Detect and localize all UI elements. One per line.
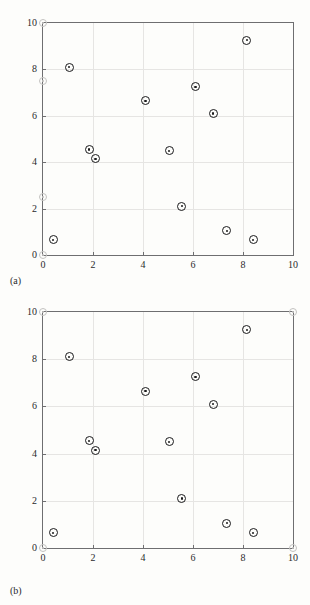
gridline-vertical bbox=[93, 312, 94, 548]
gridline-horizontal bbox=[43, 162, 293, 163]
data-point-marker bbox=[49, 235, 58, 244]
gridline-vertical bbox=[243, 312, 244, 548]
y-tick-label: 4 bbox=[32, 449, 37, 459]
data-point-marker bbox=[165, 437, 174, 446]
gridline-horizontal bbox=[43, 501, 293, 502]
data-point-marker bbox=[85, 145, 94, 154]
data-point-marker bbox=[242, 325, 251, 334]
x-tick-label: 10 bbox=[288, 260, 298, 270]
gridline-horizontal bbox=[43, 69, 293, 70]
data-point-marker bbox=[141, 96, 150, 105]
x-tick-label: 8 bbox=[241, 260, 246, 270]
x-tick-mark bbox=[93, 545, 94, 549]
boundary-marker bbox=[39, 544, 47, 552]
y-tick-label: 0 bbox=[32, 543, 37, 553]
y-tick-mark bbox=[42, 454, 46, 455]
data-point-marker bbox=[177, 202, 186, 211]
data-point-marker bbox=[242, 36, 251, 45]
x-tick-label: 10 bbox=[288, 553, 298, 563]
y-tick-mark bbox=[42, 69, 46, 70]
y-tick-label: 4 bbox=[32, 157, 37, 167]
y-tick-mark bbox=[42, 406, 46, 407]
data-point-marker bbox=[91, 446, 100, 455]
x-tick-label: 8 bbox=[241, 553, 246, 563]
data-point-marker bbox=[249, 235, 258, 244]
y-tick-label: 8 bbox=[32, 64, 37, 74]
y-tick-mark bbox=[42, 162, 46, 163]
gridline-vertical bbox=[93, 23, 94, 255]
x-tick-mark bbox=[193, 545, 194, 549]
y-tick-label: 10 bbox=[27, 18, 37, 28]
boundary-marker bbox=[39, 19, 47, 27]
y-tick-mark bbox=[42, 116, 46, 117]
x-tick-label: 4 bbox=[141, 553, 146, 563]
panel-b: 02468100246810 (b) bbox=[0, 296, 310, 605]
x-tick-label: 0 bbox=[41, 260, 46, 270]
gridline-vertical bbox=[243, 23, 244, 255]
x-tick-label: 6 bbox=[191, 260, 196, 270]
gridline-vertical bbox=[143, 312, 144, 548]
y-tick-label: 6 bbox=[32, 111, 37, 121]
x-tick-mark bbox=[243, 252, 244, 256]
plot-area-b: 02468100246810 bbox=[42, 311, 294, 549]
x-tick-mark bbox=[93, 252, 94, 256]
panel-label-a: (a) bbox=[10, 276, 21, 286]
data-point-marker bbox=[222, 519, 231, 528]
y-tick-label: 10 bbox=[27, 307, 37, 317]
y-tick-mark bbox=[42, 501, 46, 502]
x-tick-mark bbox=[143, 252, 144, 256]
data-point-marker bbox=[49, 528, 58, 537]
x-tick-label: 2 bbox=[91, 553, 96, 563]
x-tick-label: 0 bbox=[41, 553, 46, 563]
y-tick-label: 8 bbox=[32, 354, 37, 364]
gridline-horizontal bbox=[43, 406, 293, 407]
y-tick-mark bbox=[42, 209, 46, 210]
data-point-marker bbox=[191, 372, 200, 381]
panel-a: 02468100246810 (a) bbox=[0, 0, 310, 296]
boundary-marker bbox=[39, 77, 47, 85]
y-tick-label: 2 bbox=[32, 204, 37, 214]
gridline-vertical bbox=[193, 312, 194, 548]
gridline-vertical bbox=[143, 23, 144, 255]
boundary-marker bbox=[39, 308, 47, 316]
data-point-marker bbox=[222, 226, 231, 235]
data-point-marker bbox=[191, 82, 200, 91]
x-tick-label: 6 bbox=[191, 553, 196, 563]
boundary-marker bbox=[39, 193, 47, 201]
gridline-horizontal bbox=[43, 454, 293, 455]
y-tick-label: 6 bbox=[32, 401, 37, 411]
boundary-marker bbox=[289, 308, 297, 316]
gridline-horizontal bbox=[43, 116, 293, 117]
y-tick-label: 2 bbox=[32, 496, 37, 506]
data-point-marker bbox=[65, 63, 74, 72]
x-tick-mark bbox=[243, 545, 244, 549]
boundary-marker bbox=[39, 251, 47, 259]
gridline-vertical bbox=[193, 23, 194, 255]
data-point-marker bbox=[209, 400, 218, 409]
data-point-marker bbox=[141, 387, 150, 396]
panel-label-b: (b) bbox=[10, 586, 22, 596]
gridline-horizontal bbox=[43, 209, 293, 210]
boundary-marker bbox=[289, 544, 297, 552]
gridline-horizontal bbox=[43, 359, 293, 360]
y-tick-label: 0 bbox=[32, 250, 37, 260]
figure-scatter-pair: 02468100246810 (a) 02468100246810 (b) bbox=[0, 0, 310, 605]
x-tick-label: 2 bbox=[91, 260, 96, 270]
data-point-marker bbox=[165, 146, 174, 155]
x-tick-mark bbox=[143, 545, 144, 549]
x-tick-label: 4 bbox=[141, 260, 146, 270]
plot-area-a: 02468100246810 bbox=[42, 22, 294, 256]
data-point-marker bbox=[209, 109, 218, 118]
data-point-marker bbox=[249, 528, 258, 537]
y-tick-mark bbox=[42, 359, 46, 360]
x-tick-mark bbox=[193, 252, 194, 256]
data-point-marker bbox=[85, 436, 94, 445]
